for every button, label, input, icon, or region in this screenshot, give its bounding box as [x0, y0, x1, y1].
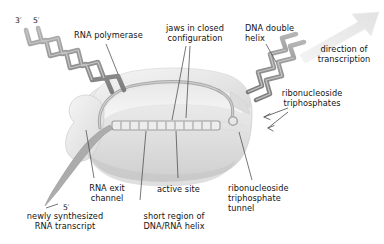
label-ribonucleoside-triphosphates: ribonucleoside triphosphates [262, 88, 362, 108]
label-five-prime-top: 5′ [33, 16, 40, 25]
label-direction-of-transcription: direction of transcription [305, 44, 383, 64]
label-jaws-closed-configuration: jaws in closed configuration [153, 23, 237, 43]
dna-rna-hybrid-helix [112, 121, 220, 130]
label-three-prime: 3′ [15, 16, 22, 25]
ntp-arrows [264, 108, 288, 131]
label-rna-exit-channel: RNA exit channel [78, 183, 136, 203]
label-newly-synthesized-rna-transcript: newly synthesized RNA transcript [12, 211, 118, 231]
label-dna-double-helix: DNA double helix [245, 23, 294, 43]
label-rna-polymerase: RNA polymerase [74, 30, 143, 40]
label-active-site: active site [157, 184, 200, 194]
label-ribonucleoside-triphosphate-tunnel: ribonucleoside triphosphate tunnel [228, 183, 289, 214]
rna-polymerase-diagram: 3′ 5′ RNA polymerase jaws in closed conf… [0, 0, 384, 244]
label-short-region-dna-rna-helix: short region of DNA/RNA helix [126, 211, 222, 231]
